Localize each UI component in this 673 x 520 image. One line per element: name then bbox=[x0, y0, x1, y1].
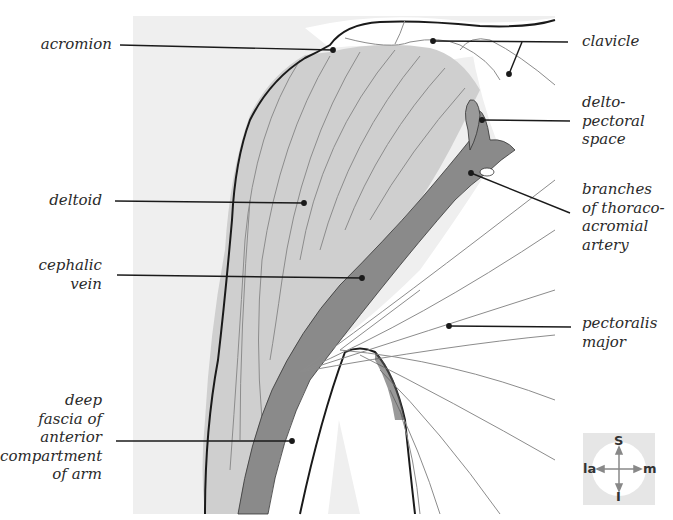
label-pectoralis-major: pectoralis major bbox=[582, 314, 672, 351]
compass-inferior-label: I bbox=[616, 490, 621, 504]
compass-lateral-label: la bbox=[583, 462, 596, 476]
label-clavicle: clavicle bbox=[582, 32, 672, 51]
label-thoracoacromial-branches: branches of thoraco- acromial artery bbox=[582, 180, 673, 254]
label-deltoid: deltoid bbox=[20, 191, 102, 210]
compass-medial-label: m bbox=[643, 462, 657, 476]
label-acromion: acromion bbox=[20, 35, 112, 54]
label-cephalic-vein: cephalic vein bbox=[20, 256, 102, 293]
compass-superior-label: S bbox=[614, 434, 623, 448]
anatomy-figure: acromion deltoid cephalic vein deep fasc… bbox=[0, 0, 673, 520]
label-deep-fascia: deep fascia of anterior compartment of a… bbox=[0, 391, 102, 484]
artery-lumen bbox=[480, 168, 494, 176]
label-deltopectoral-space: delto- pectoral space bbox=[582, 93, 672, 149]
